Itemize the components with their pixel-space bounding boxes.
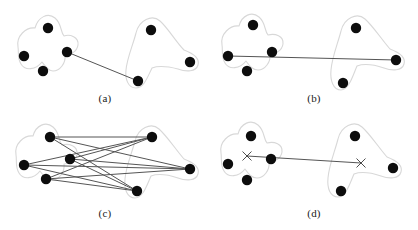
node-b-l2 [223,51,233,61]
node-d-l2 [223,159,233,169]
panel-caption-d: (d) [294,207,334,219]
node-b-l3 [242,66,252,76]
node-b-r1 [351,23,361,33]
node-d-r1 [350,131,360,141]
node-c-l1 [45,132,55,142]
node-a-r2 [185,57,195,67]
node-a-l2 [19,51,29,61]
node-b-l1 [248,20,258,30]
node-d-r2 [388,163,398,173]
panel-caption-c: (c) [85,207,125,219]
node-a-l3 [38,66,48,76]
node-c-l2 [19,160,29,170]
node-d-l3 [242,175,252,185]
node-b-l4 [267,47,277,57]
node-c-r1 [147,132,157,142]
node-d-r3 [336,186,346,196]
bipartite-graph-figure [0,0,418,230]
node-d-l4 [266,154,276,164]
panel-caption-a: (a) [85,92,125,104]
node-c-l3 [41,174,51,184]
node-a-r3 [133,76,143,86]
node-a-l1 [43,23,53,33]
node-c-r2 [185,164,195,174]
node-c-l4 [65,154,75,164]
node-b-r2 [391,55,401,65]
node-c-r3 [132,186,142,196]
node-d-l1 [246,131,256,141]
node-a-r1 [146,25,156,35]
node-a-l4 [62,47,72,57]
panel-caption-b: (b) [294,92,334,104]
node-b-r3 [338,78,348,88]
